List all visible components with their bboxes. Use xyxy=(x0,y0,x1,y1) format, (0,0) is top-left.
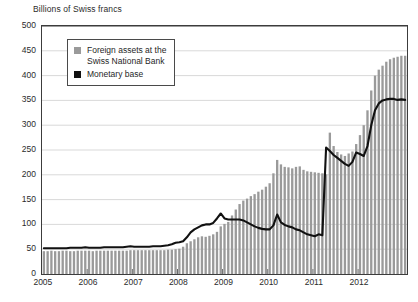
bar xyxy=(404,56,406,274)
chart-container: Billions of Swiss francs 050100150200250… xyxy=(0,0,418,302)
legend-item-monetary-base: Monetary base xyxy=(74,69,166,80)
bar xyxy=(133,250,135,274)
bar xyxy=(58,251,60,274)
bar xyxy=(122,251,124,274)
bar xyxy=(95,251,97,274)
bar xyxy=(103,251,105,274)
y-axis-tick-labels: 050100150200250300350400450500 xyxy=(0,0,36,302)
chart-legend: Foreign assets at the Swiss National Ban… xyxy=(67,39,175,86)
bar xyxy=(242,201,244,274)
bar xyxy=(137,250,139,274)
bar xyxy=(84,251,86,274)
y-tick-label: 500 xyxy=(4,21,36,30)
y-tick-label: 150 xyxy=(4,195,36,204)
bar xyxy=(359,135,361,274)
bar xyxy=(62,251,64,274)
bar xyxy=(88,251,90,274)
bar xyxy=(366,110,368,274)
bar xyxy=(43,251,45,274)
y-tick-label: 0 xyxy=(4,269,36,278)
x-tick-label: 2005 xyxy=(26,278,60,287)
bar xyxy=(118,251,120,274)
bar xyxy=(107,251,109,274)
y-tick-label: 200 xyxy=(4,170,36,179)
bar xyxy=(295,167,297,274)
bar xyxy=(396,57,398,274)
bar xyxy=(54,251,56,274)
bar xyxy=(189,241,191,274)
bar xyxy=(182,247,184,274)
bar xyxy=(201,236,203,274)
bar xyxy=(212,234,214,274)
legend-label-foreign-assets: Foreign assets at the Swiss National Ban… xyxy=(87,45,166,66)
legend-swatch-monetary-base xyxy=(74,71,81,78)
bar xyxy=(220,226,222,274)
bar xyxy=(378,70,380,274)
bar-series-foreign-assets xyxy=(43,56,407,274)
bar xyxy=(400,56,402,274)
bar xyxy=(50,251,52,274)
bar xyxy=(223,224,225,274)
bar xyxy=(208,236,210,274)
bar xyxy=(159,250,161,274)
x-tick-label: 2011 xyxy=(297,278,331,287)
bar xyxy=(351,151,353,274)
bar xyxy=(178,249,180,274)
bar xyxy=(69,251,71,274)
bar xyxy=(152,250,154,274)
bar xyxy=(389,59,391,274)
x-tick-label: 2008 xyxy=(161,278,195,287)
bar xyxy=(332,146,334,274)
bar xyxy=(144,250,146,274)
bar xyxy=(310,172,312,274)
y-tick-label: 450 xyxy=(4,46,36,55)
bar xyxy=(126,251,128,274)
bar xyxy=(171,250,173,274)
bar xyxy=(46,251,48,274)
bar xyxy=(110,251,112,274)
bar xyxy=(314,172,316,274)
bar xyxy=(329,133,331,274)
bar xyxy=(336,152,338,274)
bar xyxy=(73,251,75,274)
bar xyxy=(156,250,158,274)
bar xyxy=(141,250,143,274)
x-tick-label: 2010 xyxy=(252,278,286,287)
bar xyxy=(246,199,248,274)
bar xyxy=(114,251,116,274)
bar xyxy=(385,62,387,274)
bar xyxy=(284,167,286,274)
bar xyxy=(129,250,131,274)
x-tick-label: 2009 xyxy=(207,278,241,287)
bar xyxy=(216,232,218,274)
bar xyxy=(80,251,82,274)
y-tick-label: 100 xyxy=(4,219,36,228)
bar xyxy=(299,166,301,274)
bar xyxy=(291,168,293,274)
bar xyxy=(205,237,207,274)
bar xyxy=(163,250,165,274)
bar xyxy=(393,58,395,274)
y-tick-label: 50 xyxy=(4,244,36,253)
bar xyxy=(99,251,101,274)
bar xyxy=(355,144,357,274)
bar xyxy=(374,76,376,274)
bar xyxy=(302,170,304,274)
bar xyxy=(287,167,289,274)
x-tick-label: 2012 xyxy=(342,278,376,287)
y-tick-label: 300 xyxy=(4,120,36,129)
bar xyxy=(174,249,176,274)
x-tick-label: 2006 xyxy=(71,278,105,287)
bar xyxy=(197,237,199,274)
bar xyxy=(167,250,169,274)
bar xyxy=(186,243,188,274)
bar xyxy=(340,154,342,274)
bar xyxy=(381,66,383,274)
chart-axis-title: Billions of Swiss francs xyxy=(33,4,122,14)
bar xyxy=(238,204,240,274)
bar xyxy=(231,215,233,274)
bar xyxy=(227,222,229,274)
bar xyxy=(77,251,79,274)
bar xyxy=(344,156,346,274)
legend-item-foreign-assets: Foreign assets at the Swiss National Ban… xyxy=(74,45,166,66)
